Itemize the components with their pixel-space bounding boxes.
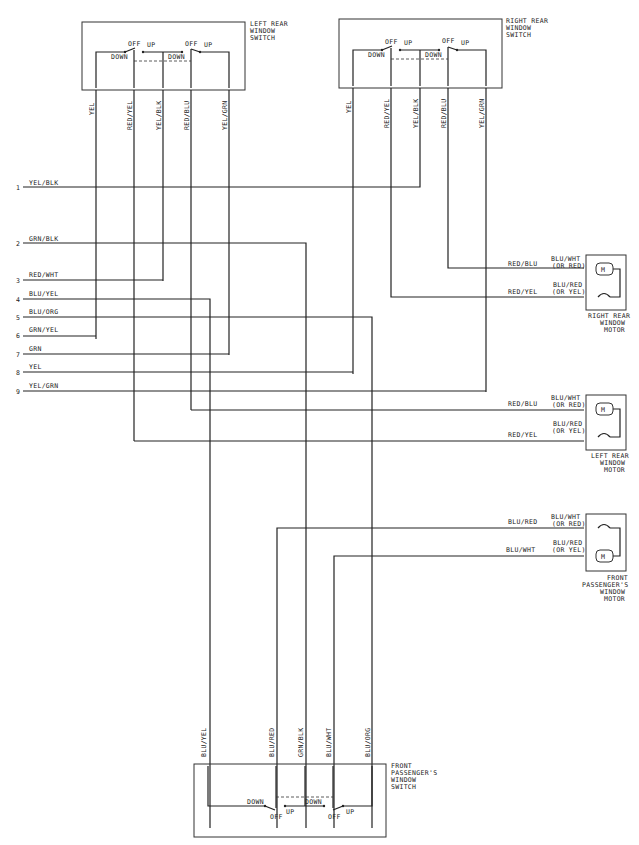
svg-text:UP: UP bbox=[204, 41, 212, 49]
connector-pin-labels: 1 YEL/BLK 2 GRN/BLK 3 RED/WHT 4 BLU/YEL … bbox=[16, 179, 59, 396]
svg-text:UP: UP bbox=[346, 808, 354, 816]
front-passenger-window-motor: M BLU/RED BLU/WHT BLU/WHT (OR RED) BLU/R… bbox=[506, 513, 628, 603]
svg-text:MOTOR: MOTOR bbox=[604, 466, 625, 474]
left-rear-window-motor: M RED/BLU RED/YEL BLU/WHT (OR RED) BLU/R… bbox=[508, 394, 629, 474]
svg-text:OFF: OFF bbox=[328, 813, 341, 821]
svg-text:(OR RED): (OR RED) bbox=[552, 262, 586, 270]
svg-text:DOWN: DOWN bbox=[247, 798, 264, 806]
svg-text:YEL/GRN: YEL/GRN bbox=[221, 101, 229, 131]
motor-icon: M bbox=[601, 266, 605, 274]
svg-text:7: 7 bbox=[16, 351, 20, 359]
svg-text:(OR YEL): (OR YEL) bbox=[552, 546, 586, 554]
svg-text:BLU/WHT: BLU/WHT bbox=[506, 546, 536, 554]
svg-text:YEL: YEL bbox=[29, 363, 42, 371]
svg-text:YEL: YEL bbox=[345, 100, 353, 113]
svg-text:OFF: OFF bbox=[442, 37, 455, 45]
svg-text:6: 6 bbox=[16, 332, 20, 340]
svg-text:(OR RED): (OR RED) bbox=[552, 520, 586, 528]
svg-text:GRN/BLK: GRN/BLK bbox=[297, 728, 305, 758]
right-rear-window-motor: M RED/BLU RED/YEL BLU/WHT (OR RED) BLU/R… bbox=[508, 255, 630, 334]
svg-text:3: 3 bbox=[16, 277, 20, 285]
svg-text:DOWN: DOWN bbox=[111, 53, 128, 61]
svg-text:UP: UP bbox=[404, 39, 412, 47]
svg-text:BLU/ORG: BLU/ORG bbox=[364, 728, 372, 758]
svg-text:MOTOR: MOTOR bbox=[604, 326, 625, 334]
svg-text:RED/BLU: RED/BLU bbox=[440, 99, 448, 129]
svg-text:SWITCH: SWITCH bbox=[506, 31, 531, 39]
motor-icon: M bbox=[601, 553, 605, 561]
svg-text:4: 4 bbox=[16, 296, 20, 304]
window-wiring-diagram: LEFT REAR WINDOW SWITCH OFF UP DOWN OFF … bbox=[0, 0, 639, 845]
svg-text:GRN/YEL: GRN/YEL bbox=[29, 326, 59, 334]
svg-text:2: 2 bbox=[16, 240, 20, 248]
svg-text:OFF: OFF bbox=[128, 40, 141, 48]
svg-text:8: 8 bbox=[16, 369, 20, 377]
svg-text:RED/YEL: RED/YEL bbox=[383, 99, 391, 129]
svg-text:(OR RED): (OR RED) bbox=[552, 401, 586, 409]
svg-text:(OR YEL): (OR YEL) bbox=[552, 427, 586, 435]
svg-text:RED/BLU: RED/BLU bbox=[508, 260, 538, 268]
svg-text:RED/YEL: RED/YEL bbox=[508, 431, 538, 439]
svg-text:YEL/BLK: YEL/BLK bbox=[412, 99, 420, 129]
svg-text:BLU/RED: BLU/RED bbox=[508, 518, 538, 526]
svg-text:DOWN: DOWN bbox=[368, 51, 385, 59]
svg-text:YEL/GRN: YEL/GRN bbox=[29, 382, 59, 390]
svg-text:YEL/BLK: YEL/BLK bbox=[29, 179, 59, 187]
svg-text:RED/YEL: RED/YEL bbox=[508, 288, 538, 296]
svg-text:BLU/YEL: BLU/YEL bbox=[29, 290, 59, 298]
svg-text:YEL/GRN: YEL/GRN bbox=[478, 99, 486, 129]
front-passenger-window-switch: FRONT PASSENGER'S WINDOW SWITCH DOWN OFF… bbox=[194, 728, 437, 838]
svg-text:9: 9 bbox=[16, 388, 20, 396]
svg-text:UP: UP bbox=[461, 39, 469, 47]
svg-text:YEL/BLK: YEL/BLK bbox=[155, 101, 163, 131]
right-rear-window-switch: RIGHT REAR WINDOW SWITCH OFF UP DOWN OFF… bbox=[339, 17, 548, 128]
wiring-harness bbox=[23, 88, 584, 828]
motor-icon: M bbox=[601, 406, 605, 414]
svg-text:OFF: OFF bbox=[385, 38, 398, 46]
svg-text:YEL: YEL bbox=[88, 102, 96, 115]
svg-text:SWITCH: SWITCH bbox=[391, 783, 416, 791]
svg-text:DOWN: DOWN bbox=[168, 53, 185, 61]
svg-text:BLU/ORG: BLU/ORG bbox=[29, 308, 59, 316]
svg-text:OFF: OFF bbox=[185, 40, 198, 48]
svg-text:GRN: GRN bbox=[29, 345, 42, 353]
svg-text:DOWN: DOWN bbox=[305, 798, 322, 806]
svg-text:1: 1 bbox=[16, 184, 20, 192]
svg-text:RED/BLU: RED/BLU bbox=[183, 101, 191, 131]
svg-text:MOTOR: MOTOR bbox=[604, 595, 625, 603]
svg-text:UP: UP bbox=[147, 41, 155, 49]
svg-text:RED/YEL: RED/YEL bbox=[126, 101, 134, 131]
svg-text:UP: UP bbox=[286, 808, 294, 816]
left-rear-window-switch: LEFT REAR WINDOW SWITCH OFF UP DOWN OFF … bbox=[82, 20, 288, 130]
svg-text:BLU/RED: BLU/RED bbox=[268, 728, 276, 758]
svg-text:GRN/BLK: GRN/BLK bbox=[29, 235, 59, 243]
svg-text:RED/WHT: RED/WHT bbox=[29, 271, 59, 279]
svg-text:5: 5 bbox=[16, 314, 20, 322]
svg-text:BLU/YEL: BLU/YEL bbox=[200, 728, 208, 758]
svg-text:RED/BLU: RED/BLU bbox=[508, 400, 538, 408]
svg-text:OFF: OFF bbox=[270, 813, 283, 821]
svg-text:BLU/WHT: BLU/WHT bbox=[325, 728, 333, 758]
svg-text:(OR YEL): (OR YEL) bbox=[552, 288, 586, 296]
svg-text:DOWN: DOWN bbox=[425, 51, 442, 59]
svg-text:SWITCH: SWITCH bbox=[250, 34, 275, 42]
